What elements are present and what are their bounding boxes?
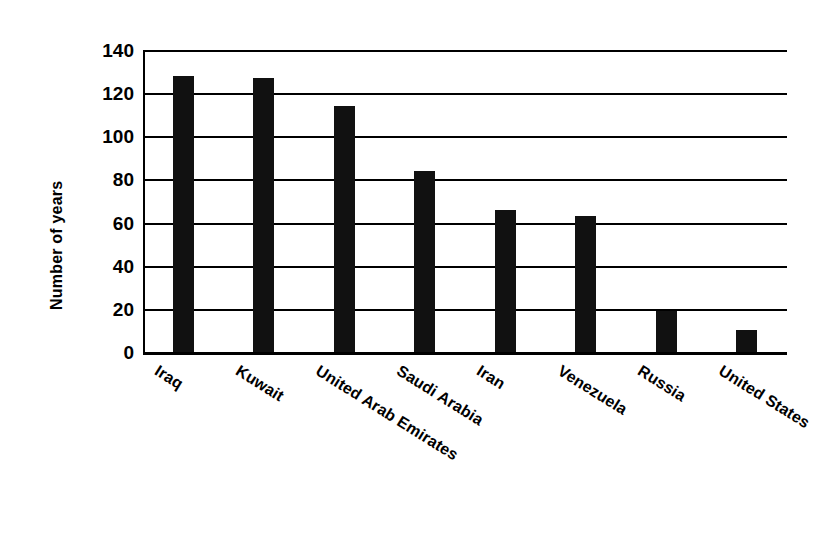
bar <box>656 311 677 352</box>
x-tick-label: United States <box>715 362 812 432</box>
y-axis-title: Number of years <box>44 10 70 310</box>
y-axis-tick-labels: 020406080100120140 <box>68 0 134 553</box>
bar <box>173 76 194 352</box>
bar-chart: Number of years 020406080100120140 IraqK… <box>0 0 829 553</box>
y-tick-label: 60 <box>72 213 134 232</box>
bar <box>575 216 596 352</box>
x-tick-label: Venezuela <box>554 362 630 419</box>
y-tick-label: 120 <box>72 84 134 103</box>
bars-layer <box>143 50 787 352</box>
x-tick-label: Kuwait <box>232 362 287 405</box>
x-axis-tick-labels: IraqKuwaitUnited Arab EmiratesSaudi Arab… <box>143 352 787 552</box>
x-tick-label: Iran <box>474 362 509 393</box>
plot-area <box>143 50 787 352</box>
y-tick-label: 0 <box>72 343 134 362</box>
y-tick-label: 140 <box>72 41 134 60</box>
x-tick-label: Iraq <box>152 362 187 393</box>
bar <box>736 330 757 352</box>
x-tick-label: United Arab Emirates <box>313 362 462 464</box>
bar <box>334 106 355 352</box>
y-tick-label: 40 <box>72 256 134 275</box>
bar <box>253 78 274 352</box>
y-tick-label: 20 <box>72 299 134 318</box>
y-tick-label: 100 <box>72 127 134 146</box>
y-tick-label: 80 <box>72 170 134 189</box>
x-tick-label: Russia <box>635 362 690 405</box>
bar <box>495 210 516 352</box>
bar <box>414 171 435 352</box>
